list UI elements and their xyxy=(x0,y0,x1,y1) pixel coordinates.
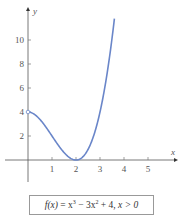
function-plot: 1 2 3 4 5 2 4 6 8 10 x y xyxy=(0,0,181,218)
x-tick-label: 2 xyxy=(74,164,79,174)
open-endpoint xyxy=(26,110,30,114)
equation-caption-box: f(x) = x3 − 3x2 + 4, x > 0 xyxy=(29,195,154,215)
function-curve xyxy=(28,19,114,160)
y-tick-label: 2 xyxy=(20,131,25,141)
y-axis-label: y xyxy=(32,6,37,16)
y-tick-label: 10 xyxy=(15,35,25,45)
x-tick-label: 3 xyxy=(98,164,103,174)
x-tick-label: 4 xyxy=(122,164,127,174)
x-ticks xyxy=(52,157,148,160)
y-tick-label: 6 xyxy=(20,83,25,93)
x-tick-label: 5 xyxy=(146,164,151,174)
x-tick-label: 1 xyxy=(50,164,55,174)
y-tick-label: 4 xyxy=(20,107,25,117)
equation-caption: f(x) = x3 − 3x2 + 4, x > 0 xyxy=(45,199,138,210)
x-axis-label: x xyxy=(170,147,175,157)
y-ticks xyxy=(28,40,31,136)
y-tick-label: 8 xyxy=(20,59,25,69)
